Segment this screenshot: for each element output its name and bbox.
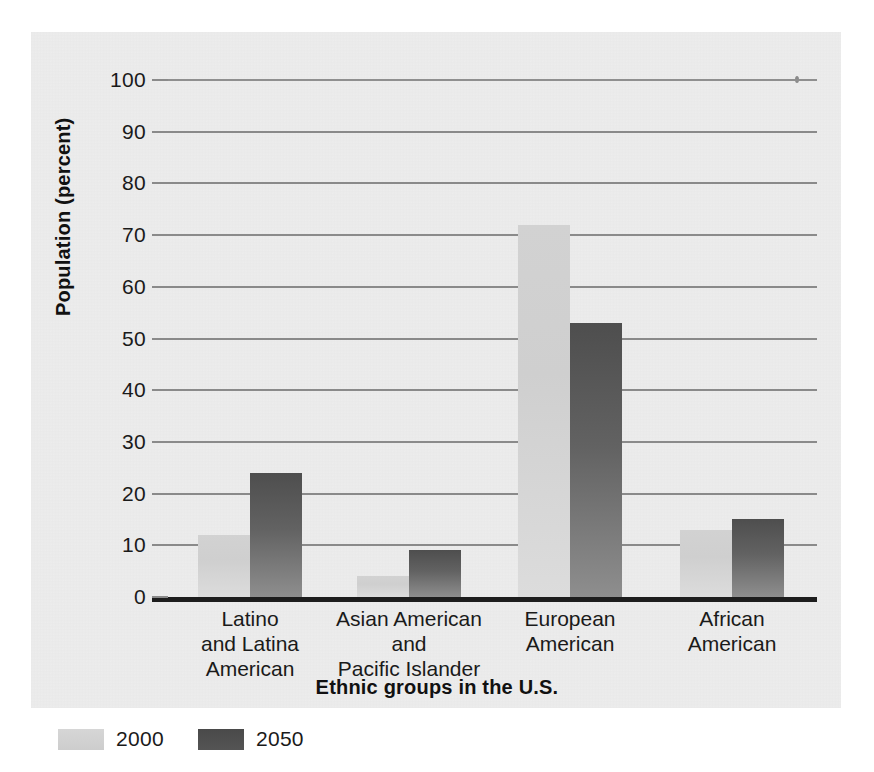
gridline-60 xyxy=(168,286,817,288)
legend-item-2050[interactable]: 2050 xyxy=(198,727,304,751)
y-tick-60 xyxy=(152,286,168,288)
bar-2050-group-3 xyxy=(570,323,622,597)
y-tick-label-20: 20 xyxy=(122,482,146,506)
gridline-90 xyxy=(168,131,817,133)
y-tick-label-40: 40 xyxy=(122,378,146,402)
y-tick-0 xyxy=(152,596,168,598)
legend-label-2050: 2050 xyxy=(256,727,304,751)
bar-2000-group-1 xyxy=(198,535,250,597)
gridline-80 xyxy=(168,182,817,184)
y-tick-90 xyxy=(152,131,168,133)
y-tick-40 xyxy=(152,389,168,391)
y-axis-title: Population (percent) xyxy=(52,288,75,316)
bar-2000-group-3 xyxy=(518,225,570,597)
gridline-50 xyxy=(168,338,817,340)
y-tick-100 xyxy=(152,79,168,81)
gridline-30 xyxy=(168,441,817,443)
gridline-40 xyxy=(168,389,817,391)
y-tick-80 xyxy=(152,182,168,184)
x-category-label-4: African American xyxy=(622,606,842,656)
y-tick-label-30: 30 xyxy=(122,430,146,454)
y-tick-label-50: 50 xyxy=(122,327,146,351)
y-tick-label-100: 100 xyxy=(110,68,146,92)
y-tick-50 xyxy=(152,338,168,340)
bar-2000-group-2 xyxy=(357,576,409,597)
bar-2050-group-4 xyxy=(732,519,784,597)
bar-2000-group-4 xyxy=(680,530,732,597)
gridline-100 xyxy=(168,79,817,81)
y-tick-label-90: 90 xyxy=(122,120,146,144)
light-gray-swatch xyxy=(58,729,104,750)
dark-gray-swatch xyxy=(198,729,244,750)
x-axis-baseline xyxy=(152,597,817,602)
gridline-70 xyxy=(168,234,817,236)
y-tick-label-70: 70 xyxy=(122,223,146,247)
bar-chart-figure: Population (percent) 0102030405060708090… xyxy=(0,0,874,772)
y-tick-70 xyxy=(152,234,168,236)
y-tick-label-60: 60 xyxy=(122,275,146,299)
legend-item-2000[interactable]: 2000 xyxy=(58,727,164,751)
y-tick-label-80: 80 xyxy=(122,171,146,195)
y-tick-label-10: 10 xyxy=(122,533,146,557)
bar-2050-group-2 xyxy=(409,550,461,597)
y-tick-30 xyxy=(152,441,168,443)
bar-2050-group-1 xyxy=(250,473,302,597)
y-tick-20 xyxy=(152,493,168,495)
legend-label-2000: 2000 xyxy=(116,727,164,751)
y-tick-10 xyxy=(152,544,168,546)
plot-area: 0102030405060708090100 xyxy=(168,80,817,597)
chart-legend: 20002050 xyxy=(58,727,304,751)
